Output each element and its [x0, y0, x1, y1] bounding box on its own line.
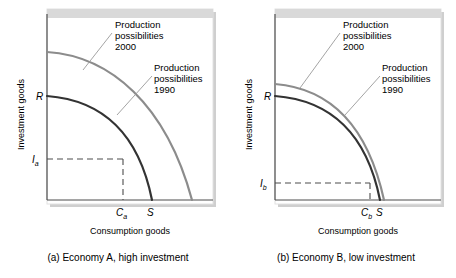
panel-economy-a: Investment goods Production possibilitie…	[0, 0, 228, 278]
annotation-ppf-1990-line1: Production	[382, 62, 427, 73]
annotation-ppf-2000-line2: possibilities	[115, 30, 164, 41]
x-axis-label: Consumption goods	[318, 226, 399, 236]
annotation-ppf-1990-line2: possibilities	[382, 73, 431, 84]
point-label-Ia: Ia	[32, 154, 39, 167]
y-axis-label: Investment goods	[16, 78, 26, 150]
annotation-ppf-1990-line2: possibilities	[154, 73, 203, 84]
annotation-ppf-2000-line1: Production	[115, 19, 160, 30]
annotation-ppf-1990-line3: 1990	[154, 84, 175, 95]
annotation-ppf-1990-line1: Production	[154, 62, 199, 73]
y-axis-label: Investment goods	[244, 78, 254, 150]
point-label-Ib: Ib	[260, 178, 267, 191]
annotation-ppf-2000-line1: Production	[343, 19, 388, 30]
figure-production-possibilities: Investment goods Production possibilitie…	[0, 0, 456, 278]
annotation-ppf-2000-line3: 2000	[343, 41, 364, 52]
panel-economy-b: Investment goods Production possibilitie…	[228, 0, 456, 278]
annotation-ppf-1990-line3: 1990	[382, 84, 403, 95]
plot-top-band	[47, 9, 213, 18]
plot-top-band	[275, 9, 441, 18]
point-label-S: S	[147, 207, 154, 218]
annotation-ppf-2000-line3: 2000	[115, 41, 136, 52]
point-label-S: S	[376, 207, 383, 218]
x-axis-label: Consumption goods	[90, 226, 171, 236]
point-label-R: R	[36, 91, 43, 102]
panel-caption-a: (a) Economy A, high investment	[47, 252, 188, 263]
point-label-R: R	[264, 91, 271, 102]
point-label-Ca: Ca	[116, 207, 127, 220]
point-label-Cb: Cb	[361, 207, 372, 220]
annotation-ppf-2000-line2: possibilities	[343, 30, 392, 41]
panel-caption-b: (b) Economy B, low investment	[277, 252, 415, 263]
